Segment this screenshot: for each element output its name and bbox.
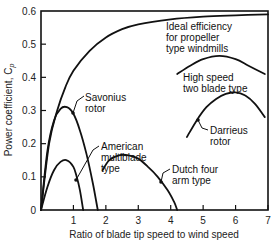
x-tick-label: 3 — [136, 215, 142, 226]
y-tick-label: 0.5 — [22, 39, 36, 50]
y-tick-label: 0 — [30, 205, 36, 216]
dutch-four-arm-label: Dutch fourarm type — [172, 164, 219, 186]
y-tick-label: 0.3 — [22, 105, 36, 116]
y-axis-title-sub: p — [8, 64, 16, 69]
x-tick-label: 7 — [265, 215, 271, 226]
y-tick-label: 0.1 — [22, 171, 36, 182]
power-coefficient-chart: 123456700.10.20.30.40.50.6 Ideal efficie… — [0, 0, 276, 245]
leader-line — [73, 96, 84, 113]
leader-line — [161, 169, 170, 182]
leader-dot — [74, 178, 78, 182]
darrieus-rotor-label: Darrieusrotor — [210, 125, 248, 147]
x-tick-label: 2 — [103, 215, 109, 226]
leader-line — [76, 146, 99, 180]
leader-dot — [159, 180, 163, 184]
leader-dot — [196, 118, 200, 122]
annotations: Ideal efficiencyfor propellertype windmi… — [71, 21, 248, 186]
y-tick-label: 0.4 — [22, 72, 36, 83]
y-axis-title-main: Power coefficient, C — [3, 68, 14, 157]
x-tick-label: 6 — [233, 215, 239, 226]
x-tick-label: 4 — [168, 215, 174, 226]
leader-line — [198, 120, 208, 130]
x-tick-label: 1 — [71, 215, 77, 226]
x-axis-title: Ratio of blade tip speed to wind speed — [69, 229, 239, 240]
y-tick-label: 0.2 — [22, 138, 36, 149]
y-axis-title: Power coefficient, Cp — [3, 64, 16, 157]
leader-dot — [71, 111, 75, 115]
american-multiblade-curve — [41, 160, 83, 210]
american-multiblade-label: Americanmultibladetype — [101, 141, 147, 174]
high-speed-two-blade-label: High speedtwo blade type — [183, 72, 248, 94]
savonius-rotor-curve — [41, 107, 98, 210]
axis-ticks: 123456700.10.20.30.40.50.6 — [22, 6, 271, 227]
ideal-efficiency-label: Ideal efficiencyfor propellertype windmi… — [166, 21, 232, 54]
x-tick-label: 5 — [200, 215, 206, 226]
savonius-rotor-label: Savoniusrotor — [85, 92, 126, 114]
y-tick-label: 0.6 — [22, 6, 36, 17]
